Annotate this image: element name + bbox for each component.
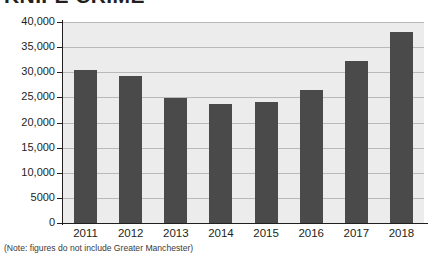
y-axis-tick-label: 0 bbox=[3, 217, 55, 228]
y-axis-tick-label: 15,000 bbox=[3, 142, 55, 153]
bar-2012 bbox=[119, 76, 142, 223]
bar-series bbox=[63, 22, 424, 223]
y-axis-tick-label: 20,000 bbox=[3, 117, 55, 128]
x-axis-tick-label: 2012 bbox=[106, 227, 156, 239]
chart-title-clipped: KNIFE CRIME bbox=[0, 0, 441, 7]
bar-2015 bbox=[255, 102, 278, 223]
bar-2011 bbox=[74, 70, 97, 223]
y-axis-labels: 0500010,00015,00020,00025,00030,00035,00… bbox=[0, 0, 55, 263]
y-axis-tick-label: 25,000 bbox=[3, 91, 55, 102]
chart-footnote: (Note: figures do not include Greater Ma… bbox=[4, 243, 193, 253]
knife-crime-bar-chart: KNIFE CRIME 0500010,00015,00020,00025,00… bbox=[0, 0, 441, 263]
y-axis-tick-label: 40,000 bbox=[3, 16, 55, 27]
x-axis-tick-label: 2014 bbox=[196, 227, 246, 239]
x-axis-tick-label: 2017 bbox=[331, 227, 381, 239]
x-axis-tick-label: 2016 bbox=[286, 227, 336, 239]
x-axis-tick-label: 2015 bbox=[241, 227, 291, 239]
bar-2013 bbox=[164, 98, 187, 223]
x-axis-tick-label: 2018 bbox=[376, 227, 426, 239]
y-axis-tick-label: 35,000 bbox=[3, 41, 55, 52]
x-axis-tick-label: 2011 bbox=[61, 227, 111, 239]
bar-2014 bbox=[209, 104, 232, 223]
y-axis-tick-label: 10,000 bbox=[3, 167, 55, 178]
y-axis-tick-label: 5000 bbox=[3, 192, 55, 203]
bar-2017 bbox=[345, 61, 368, 223]
x-axis-tick-label: 2013 bbox=[151, 227, 201, 239]
bar-2018 bbox=[390, 32, 413, 223]
bar-2016 bbox=[300, 90, 323, 223]
y-axis-tick-label: 30,000 bbox=[3, 66, 55, 77]
